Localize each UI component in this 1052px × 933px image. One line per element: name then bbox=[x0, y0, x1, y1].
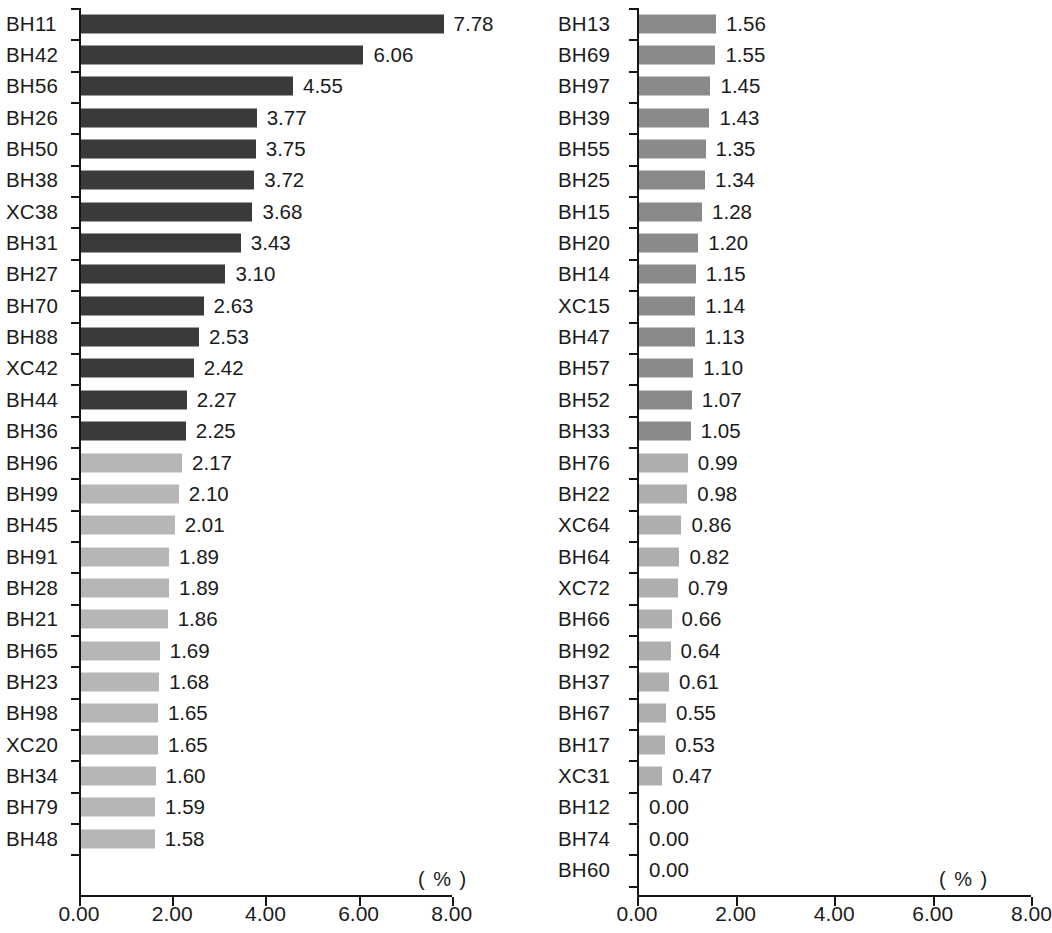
category-label: BH44 bbox=[6, 390, 58, 411]
chart-row: BH564.55 bbox=[0, 71, 530, 102]
chart-row: BH521.07 bbox=[540, 384, 1051, 415]
bar bbox=[639, 140, 706, 159]
chart-row: XC720.79 bbox=[540, 572, 1051, 603]
category-label: BH12 bbox=[558, 797, 610, 818]
bar bbox=[639, 672, 669, 691]
chart-row: BH981.65 bbox=[0, 698, 530, 729]
bar-value-label: 2.53 bbox=[209, 327, 249, 348]
category-label: BH91 bbox=[6, 546, 58, 567]
chart-row: BH471.13 bbox=[540, 322, 1051, 353]
category-label: BH15 bbox=[558, 201, 610, 222]
category-label: BH26 bbox=[6, 107, 58, 128]
bar-value-label: 1.20 bbox=[708, 233, 748, 254]
chart-row: BH740.00 bbox=[540, 823, 1051, 854]
x-axis-tick-label: 0.00 bbox=[617, 903, 658, 924]
category-label: BH14 bbox=[558, 264, 610, 285]
category-label: XC64 bbox=[558, 515, 610, 536]
chart-row: BH331.05 bbox=[540, 416, 1051, 447]
chart-row: BH170.53 bbox=[540, 729, 1051, 760]
category-label: BH88 bbox=[6, 327, 58, 348]
chart-row: BH640.82 bbox=[540, 541, 1051, 572]
chart-row: BH481.58 bbox=[0, 823, 530, 854]
category-label: BH74 bbox=[558, 828, 610, 849]
bar-value-label: 3.68 bbox=[262, 201, 302, 222]
bar bbox=[81, 610, 168, 629]
plot-area-right: BH131.56BH691.55BH971.45BH391.43BH551.35… bbox=[540, 0, 1051, 933]
chart-row: BH651.69 bbox=[0, 635, 530, 666]
chart-row: BH992.10 bbox=[0, 478, 530, 509]
chart-row: BH791.59 bbox=[0, 792, 530, 823]
bar bbox=[81, 45, 363, 64]
bar-value-label: 1.07 bbox=[702, 390, 742, 411]
bar bbox=[639, 328, 695, 347]
chart-row: XC310.47 bbox=[540, 760, 1051, 791]
bar bbox=[639, 390, 692, 409]
category-label: BH50 bbox=[6, 139, 58, 160]
chart-row: BH503.75 bbox=[0, 133, 530, 164]
bar-value-label: 1.89 bbox=[179, 578, 219, 599]
bar bbox=[639, 578, 678, 597]
bar bbox=[639, 171, 705, 190]
y-axis-tick bbox=[629, 8, 638, 10]
category-label: BH57 bbox=[558, 358, 610, 379]
chart-row: XC640.86 bbox=[540, 510, 1051, 541]
chart-row: BH442.27 bbox=[0, 384, 530, 415]
x-axis-tick-label: 4.00 bbox=[245, 903, 286, 924]
bar bbox=[81, 202, 252, 221]
bar-value-label: 0.98 bbox=[697, 484, 737, 505]
category-label: BH37 bbox=[558, 672, 610, 693]
x-axis-tick-label: 8.00 bbox=[1011, 903, 1052, 924]
bar bbox=[639, 202, 702, 221]
bar-value-label: 1.05 bbox=[701, 421, 741, 442]
chart-row: XC201.65 bbox=[0, 729, 530, 760]
chart-row: XC422.42 bbox=[0, 353, 530, 384]
bar bbox=[81, 829, 155, 848]
chart-row: BH702.63 bbox=[0, 290, 530, 321]
x-axis-tick-label: 6.00 bbox=[338, 903, 379, 924]
bar bbox=[81, 77, 293, 96]
bar-value-label: 2.63 bbox=[214, 296, 254, 317]
bar-value-label: 7.78 bbox=[454, 13, 494, 34]
chart-row: BH962.17 bbox=[0, 447, 530, 478]
bar bbox=[81, 328, 199, 347]
bar bbox=[639, 547, 679, 566]
bar-value-label: 4.55 bbox=[303, 76, 343, 97]
chart-row: BH231.68 bbox=[0, 666, 530, 697]
category-label: BH20 bbox=[558, 233, 610, 254]
plot-area-left: BH117.78BH426.06BH564.55BH263.77BH503.75… bbox=[0, 0, 530, 933]
x-axis-unit-label: ( % ) bbox=[939, 869, 989, 889]
bar-value-label: 0.79 bbox=[688, 578, 728, 599]
category-label: BH67 bbox=[558, 703, 610, 724]
chart-row: BH151.28 bbox=[540, 196, 1051, 227]
category-label: BH45 bbox=[6, 515, 58, 536]
category-label: BH23 bbox=[6, 672, 58, 693]
chart-row: XC383.68 bbox=[0, 196, 530, 227]
category-label: BH31 bbox=[6, 233, 58, 254]
bar-value-label: 0.82 bbox=[689, 546, 729, 567]
bar bbox=[81, 735, 158, 754]
chart-row: BH141.15 bbox=[540, 259, 1051, 290]
category-label: BH17 bbox=[558, 734, 610, 755]
category-label: BH48 bbox=[6, 828, 58, 849]
category-label: XC42 bbox=[6, 358, 58, 379]
category-label: XC31 bbox=[558, 766, 610, 787]
x-axis-tick-label: 6.00 bbox=[912, 903, 953, 924]
bar-value-label: 1.69 bbox=[170, 640, 210, 661]
bar bbox=[81, 390, 187, 409]
x-axis-tick-label: 8.00 bbox=[431, 903, 472, 924]
bar bbox=[81, 265, 225, 284]
bar-value-label: 1.58 bbox=[165, 828, 205, 849]
bar-value-label: 6.06 bbox=[373, 45, 413, 66]
bar bbox=[639, 453, 688, 472]
category-label: BH27 bbox=[6, 264, 58, 285]
bar bbox=[81, 14, 444, 33]
bar bbox=[639, 234, 698, 253]
bar bbox=[639, 767, 662, 786]
bar bbox=[639, 516, 681, 535]
bar bbox=[639, 610, 672, 629]
bar-value-label: 0.53 bbox=[675, 734, 715, 755]
category-label: BH79 bbox=[6, 797, 58, 818]
bar-value-label: 0.86 bbox=[691, 515, 731, 536]
bar-value-label: 1.56 bbox=[726, 13, 766, 34]
